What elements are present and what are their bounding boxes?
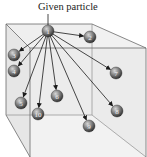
- particle-number: 2: [88, 34, 92, 42]
- particle-number: 9: [87, 123, 91, 131]
- particle-number: 1: [46, 28, 50, 36]
- particle-8: 8: [111, 105, 123, 117]
- given-particle-1: 1: [42, 25, 54, 37]
- particle-4: 4: [8, 65, 20, 77]
- particle-number: 10: [35, 111, 43, 119]
- box: [6, 24, 146, 157]
- diagram-root: Given particle: [0, 0, 147, 157]
- particle-number: 8: [115, 108, 119, 116]
- particle-6: 6: [51, 90, 63, 102]
- particle-number: 4: [12, 68, 16, 76]
- particle-number: 3: [12, 52, 16, 60]
- particle-7: 7: [110, 67, 122, 79]
- particle-number: 6: [55, 93, 59, 101]
- particle-number: 7: [114, 70, 118, 78]
- particle-5: 5: [15, 97, 27, 109]
- particle-10: 10: [32, 108, 44, 120]
- particle-2: 2: [84, 31, 96, 43]
- particle-box-diagram: 23456789101: [0, 0, 147, 157]
- particle-number: 5: [19, 100, 23, 108]
- particle-3: 3: [8, 49, 20, 61]
- particle-9: 9: [83, 120, 95, 132]
